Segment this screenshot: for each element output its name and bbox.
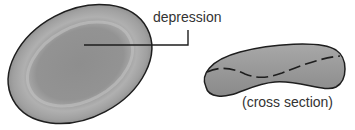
- cell-top-view: [0, 0, 172, 130]
- cross-section-label: (cross section): [242, 95, 333, 109]
- cell-top-view-shape: [0, 0, 172, 130]
- cell-cross-section: [204, 44, 345, 96]
- cross-section-shape: [204, 44, 345, 96]
- depression-label: depression: [153, 10, 222, 24]
- red-blood-cell-diagram: depression (cross section): [0, 0, 355, 130]
